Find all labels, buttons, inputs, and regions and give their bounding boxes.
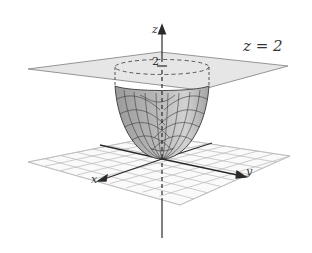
paraboloid-diagram: z x y 2 z = 2 — [0, 0, 312, 253]
x-axis-label: x — [91, 173, 98, 186]
z-axis-label: z — [151, 23, 158, 36]
plane-equation-label: z = 2 — [242, 37, 283, 55]
tick-label-2: 2 — [152, 55, 159, 68]
y-axis-label: y — [245, 165, 253, 178]
